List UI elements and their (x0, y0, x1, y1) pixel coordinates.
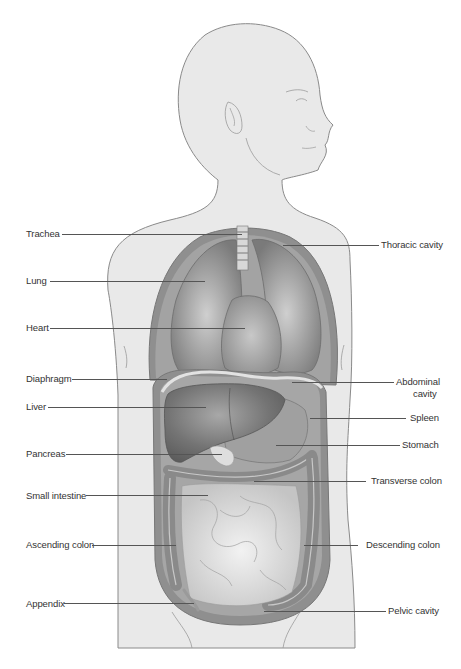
leader-pelvic-cavity (264, 611, 386, 612)
leader-abdominal-cavity (292, 382, 394, 383)
leader-lung (50, 281, 205, 282)
body-illustration (0, 0, 461, 669)
leader-heart (50, 328, 245, 329)
label-diaphragm: Diaphragm (26, 373, 72, 384)
small-intestine (181, 484, 301, 606)
leader-diaphragm (72, 379, 167, 380)
leader-trachea (62, 234, 242, 235)
leader-liver (48, 407, 206, 408)
label-abdominal-cavity-line2: cavity (413, 388, 437, 399)
label-trachea: Trachea (26, 228, 60, 239)
label-pelvic-cavity: Pelvic cavity (388, 605, 439, 616)
label-thoracic-cavity: Thoracic cavity (381, 239, 443, 250)
label-spleen: Spleen (410, 412, 439, 423)
leader-spleen (310, 418, 406, 419)
leader-descending-colon (304, 545, 358, 546)
label-stomach: Stomach (402, 439, 439, 450)
leader-small-intestine (86, 495, 208, 496)
leader-thoracic-cavity (283, 245, 379, 246)
label-appendix: Appendix (26, 598, 65, 609)
leader-appendix (64, 603, 194, 604)
trachea (237, 226, 248, 270)
leader-ascending-colon (92, 545, 176, 546)
anatomy-diagram: Trachea Lung Heart Diaphragm Liver Pancr… (0, 0, 461, 669)
label-liver: Liver (26, 401, 46, 412)
label-ascending-colon: Ascending colon (26, 539, 94, 550)
label-lung: Lung (26, 275, 47, 286)
label-small-intestine: Small intestine (26, 490, 86, 501)
leader-stomach (276, 445, 400, 446)
label-pancreas: Pancreas (26, 448, 65, 459)
leader-pancreas (66, 454, 222, 455)
leader-transverse-colon (254, 481, 366, 482)
label-descending-colon: Descending colon (366, 539, 440, 550)
label-transverse-colon: Transverse colon (371, 475, 442, 486)
label-abdominal-cavity: Abdominal (396, 376, 440, 387)
label-heart: Heart (26, 322, 49, 333)
